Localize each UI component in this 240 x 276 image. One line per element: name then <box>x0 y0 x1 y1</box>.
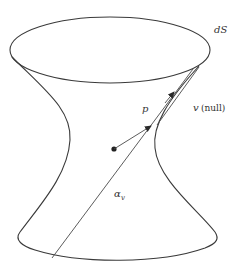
hyperboloid-top-ellipse <box>10 17 210 83</box>
label-p: p <box>142 103 149 114</box>
hyperboloid-bottom-curve <box>18 232 217 260</box>
label-alpha-subscript: v <box>121 194 125 202</box>
null-line-edge <box>157 67 199 125</box>
momentum-arrow-p <box>114 126 151 149</box>
hyperboloid-right-side <box>155 66 215 232</box>
label-ds: dS <box>214 24 227 35</box>
label-alpha: α <box>114 188 121 199</box>
label-v: v <box>193 102 199 113</box>
de-sitter-diagram: dS p v (null) α v <box>0 0 240 276</box>
null-line-v <box>52 69 193 258</box>
label-null: (null) <box>201 103 225 113</box>
hyperboloid-left-side <box>12 57 70 232</box>
